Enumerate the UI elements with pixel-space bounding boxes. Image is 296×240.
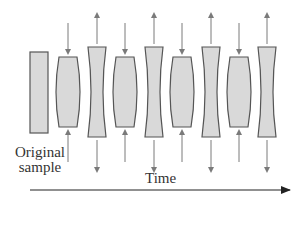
sample-compressed-5 <box>170 57 194 127</box>
sample-stretched-4 <box>145 47 163 137</box>
original-sample-label: Original sample <box>12 145 68 175</box>
original-label-line2: sample <box>12 160 68 175</box>
sample-compressed-7 <box>227 57 251 127</box>
original-sample-block <box>30 52 48 133</box>
time-label: Time <box>145 171 176 186</box>
original-label-line1: Original <box>12 145 68 160</box>
sample-compressed-1 <box>56 57 80 127</box>
sample-stretched-2 <box>88 47 106 137</box>
sample-stretched-8 <box>258 47 276 137</box>
sample-stretched-6 <box>202 47 220 137</box>
sample-compressed-3 <box>113 57 137 127</box>
